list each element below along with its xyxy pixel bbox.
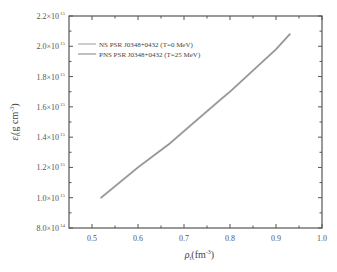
legend-label: NS PSR J0348+0432 (T=0 MeV) (99, 41, 194, 49)
y-tick-exponent: 15 (60, 193, 66, 198)
legend: NS PSR J0348+0432 (T=0 MeV)PNS PSR J0348… (78, 41, 201, 59)
x-tick-label: 0.9 (271, 234, 281, 243)
series-lines (101, 34, 290, 198)
x-axis-title: ρt(fm-3) (184, 249, 214, 261)
series-line-ns (101, 34, 290, 198)
y-tick-label: 1.6×10 (36, 103, 59, 112)
y-tick-exponent: 15 (60, 132, 66, 137)
y-axis-title: εt(g cm-3) (9, 103, 21, 140)
y-tick-label: 2.2×10 (36, 12, 59, 21)
x-tick-label: 1.0 (317, 234, 327, 243)
x-tick-label: 0.5 (87, 234, 97, 243)
chart: 0.50.60.70.80.91.0 8.0×10141.0×10151.2×1… (0, 0, 337, 272)
x-tick-label: 0.7 (179, 234, 189, 243)
y-tick-exponent: 15 (60, 72, 66, 77)
legend-label: PNS PSR J0348+0432 (T=25 MeV) (99, 51, 201, 59)
y-tick-label: 2.0×10 (36, 42, 59, 51)
y-tick-exponent: 15 (60, 41, 66, 46)
y-tick-exponent: 15 (60, 11, 66, 16)
x-tick-label: 0.6 (133, 234, 143, 243)
y-tick-label: 1.4×10 (36, 133, 59, 142)
x-tick-label: 0.8 (225, 234, 235, 243)
y-tick-exponent: 15 (60, 162, 66, 167)
y-tick-label: 1.2×10 (36, 163, 59, 172)
y-tick-label: 1.0×10 (36, 194, 59, 203)
y-tick-exponent: 15 (60, 102, 66, 107)
y-tick-label: 1.8×10 (36, 73, 59, 82)
y-tick-label: 8.0×10 (36, 224, 59, 233)
y-tick-exponent: 14 (60, 223, 66, 228)
